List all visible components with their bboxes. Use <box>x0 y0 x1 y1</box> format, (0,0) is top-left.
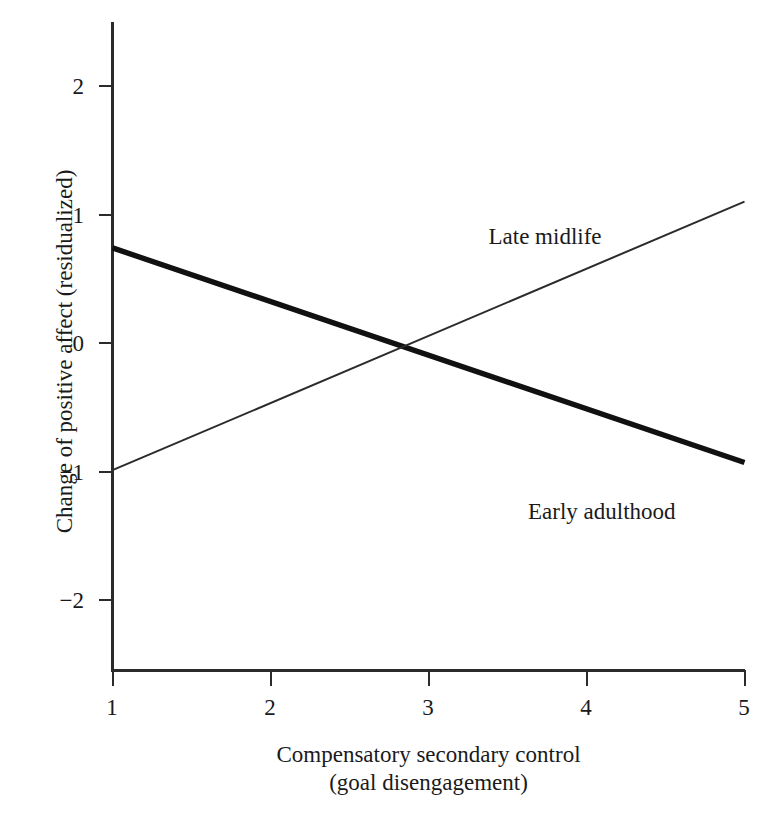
chart-figure: 2 1 0 −1 −2 1 2 3 4 5 Late midlife Early… <box>0 0 770 819</box>
y-axis-label: Change of positive affect (residualized) <box>53 42 76 662</box>
x-tick-label-1: 1 <box>106 696 118 719</box>
x-axis-label: Compensatory secondary control (goal dis… <box>112 741 745 797</box>
series-label-early-adulthood: Early adulthood <box>528 500 676 523</box>
x-tick-label-5: 5 <box>738 696 750 719</box>
x-tick-label-3: 3 <box>422 696 434 719</box>
x-tick-label-4: 4 <box>580 696 592 719</box>
x-tick-label-2: 2 <box>264 696 276 719</box>
x-axis-label-line-2: (goal disengagement) <box>112 769 745 797</box>
x-axis-label-line-1: Compensatory secondary control <box>112 741 745 769</box>
series-label-late-midlife: Late midlife <box>489 225 602 248</box>
